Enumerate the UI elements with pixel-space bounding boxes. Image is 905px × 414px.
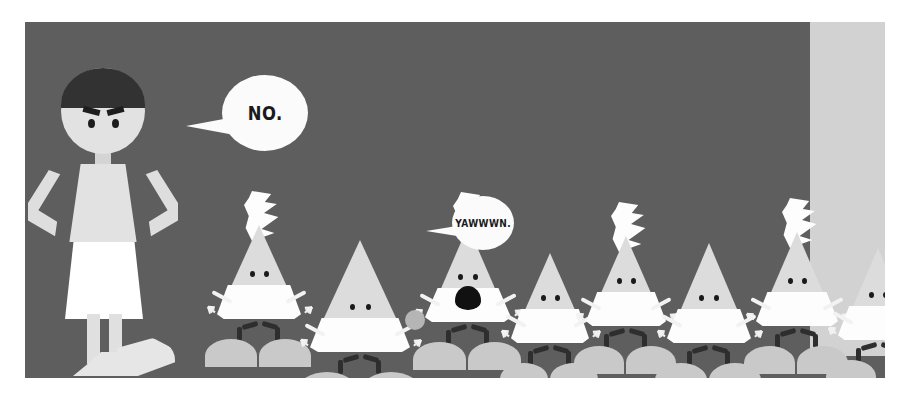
bubble-yawwwn-text: YAWWWN. <box>455 217 511 230</box>
bubble-no-tail <box>186 118 229 134</box>
bubble-no-text: NO. <box>248 101 283 125</box>
bubble-no-balloon: NO. <box>222 75 308 151</box>
bubble-yawwwn-tail <box>426 226 457 236</box>
bubble-yawwwn: YAWWWN. <box>452 196 514 250</box>
comic-panel-stage: NO.YAWWWN. <box>0 0 905 414</box>
bubble-no: NO. <box>222 75 308 151</box>
bubble-yawwwn-balloon: YAWWWN. <box>452 196 514 250</box>
speech-bubble-group: NO.YAWWWN. <box>25 22 885 378</box>
comic-panel: NO.YAWWWN. <box>25 22 885 378</box>
